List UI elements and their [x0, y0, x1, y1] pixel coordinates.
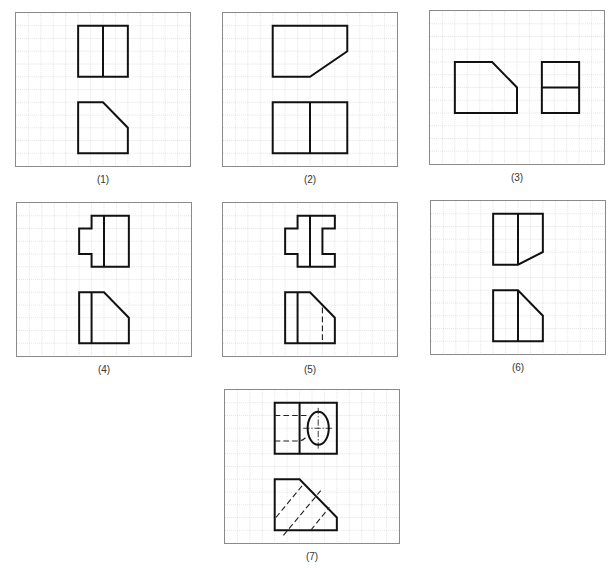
panel-caption: (1): [15, 174, 191, 185]
view-drawing: [17, 203, 191, 356]
grid-panel-4: [16, 202, 192, 357]
grid-panel-1: [15, 12, 191, 167]
panel-caption: (7): [224, 551, 400, 562]
grid-panel-5: [222, 202, 398, 357]
view-drawing: [430, 11, 604, 164]
view-drawing: [223, 13, 397, 166]
panel-caption: (6): [430, 362, 606, 373]
panel-caption: (3): [429, 172, 605, 183]
grid-lines: [225, 390, 399, 543]
grid-panel-6: [430, 200, 606, 355]
grid-panel-2: [222, 12, 398, 167]
grid-panel-7: [224, 389, 400, 544]
view-drawing: [225, 390, 399, 543]
hidden-edge: [283, 491, 320, 536]
panel-caption: (4): [16, 364, 192, 375]
panel-caption: (5): [222, 364, 398, 375]
panel-caption: (2): [222, 174, 398, 185]
view-drawing: [223, 203, 397, 356]
hidden-edge: [275, 436, 307, 441]
hidden-edge: [276, 484, 303, 517]
visible-edge: [275, 479, 337, 530]
grid-panel-3: [429, 10, 605, 165]
view-drawing: [16, 13, 190, 166]
view-drawing: [431, 201, 605, 354]
hidden-edge: [311, 507, 330, 530]
